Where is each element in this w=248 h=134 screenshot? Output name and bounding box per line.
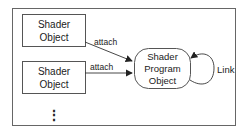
program-line3: Object bbox=[149, 75, 177, 86]
attach-label-2: attach bbox=[90, 62, 113, 72]
node-1-line1: Shader bbox=[38, 19, 71, 30]
node-2-line1: Shader bbox=[38, 66, 71, 77]
node-2-line2: Object bbox=[40, 79, 69, 90]
shader-diagram: Shader Object Shader Object ⋮ Shader Pro… bbox=[0, 0, 248, 134]
node-1-line2: Object bbox=[40, 32, 69, 43]
shader-program-object-node: Shader Program Object bbox=[135, 49, 191, 89]
link-label: Link bbox=[217, 64, 235, 75]
attach-label-1: attach bbox=[94, 37, 117, 47]
program-line1: Shader bbox=[147, 51, 178, 62]
program-line2: Program bbox=[144, 63, 181, 74]
shader-object-node-2: Shader Object bbox=[23, 62, 86, 94]
ellipsis-dots: ⋮ bbox=[47, 107, 61, 123]
shader-object-node-1: Shader Object bbox=[23, 15, 86, 47]
